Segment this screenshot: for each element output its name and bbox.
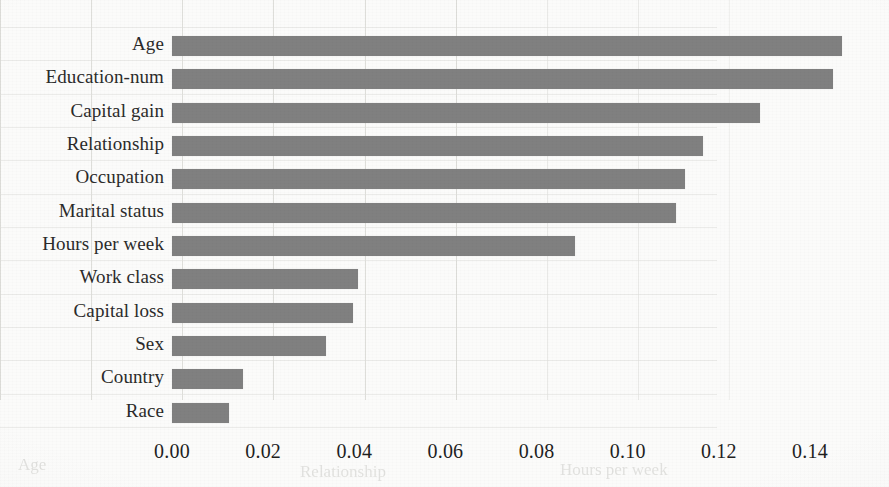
bar-row bbox=[172, 130, 889, 163]
y-axis-label-marital-status: Marital status bbox=[0, 201, 164, 221]
bar-row bbox=[172, 97, 889, 130]
bleed-text-bottom-left: Age bbox=[18, 455, 46, 475]
x-axis-tick-0.06: 0.06 bbox=[428, 438, 464, 464]
bar-relationship bbox=[172, 136, 703, 156]
bar-work-class bbox=[172, 269, 358, 289]
y-axis-label-sex: Sex bbox=[0, 334, 164, 354]
bar-occupation bbox=[172, 169, 685, 189]
bar-hours-per-week bbox=[172, 236, 575, 256]
x-axis-tick-0.10: 0.10 bbox=[610, 438, 646, 464]
x-axis-tick-0.02: 0.02 bbox=[245, 438, 281, 464]
x-axis-tick-0.00: 0.00 bbox=[154, 438, 190, 464]
bar-series bbox=[172, 30, 810, 430]
bar-row bbox=[172, 297, 889, 330]
x-axis-labels: 0.000.020.040.060.080.100.120.14 bbox=[172, 438, 889, 468]
x-axis-tick-0.08: 0.08 bbox=[519, 438, 555, 464]
y-axis-label-occupation: Occupation bbox=[0, 167, 164, 187]
y-axis-label-capital-loss: Capital loss bbox=[0, 301, 164, 321]
x-axis-tick-0.04: 0.04 bbox=[336, 438, 372, 464]
bar-sex bbox=[172, 336, 326, 356]
bar-row bbox=[172, 330, 889, 363]
y-axis-label-relationship: Relationship bbox=[0, 134, 164, 154]
bar-row bbox=[172, 197, 889, 230]
plot-area bbox=[172, 30, 810, 430]
bar-row bbox=[172, 263, 889, 296]
bar-row bbox=[172, 163, 889, 196]
bar-row bbox=[172, 230, 889, 263]
y-axis-label-education-num: Education-num bbox=[0, 67, 164, 87]
bar-row bbox=[172, 30, 889, 63]
bar-marital-status bbox=[172, 203, 676, 223]
bar-row bbox=[172, 363, 889, 396]
scan-hrule bbox=[0, 27, 717, 28]
bar-row bbox=[172, 397, 889, 430]
y-axis-label-age: Age bbox=[0, 34, 164, 54]
y-axis-label-race: Race bbox=[0, 401, 164, 421]
x-axis-tick-0.14: 0.14 bbox=[792, 438, 828, 464]
bar-education-num bbox=[172, 69, 833, 89]
y-axis-label-hours-per-week: Hours per week bbox=[0, 234, 164, 254]
bar-capital-gain bbox=[172, 103, 760, 123]
y-axis-label-capital-gain: Capital gain bbox=[0, 101, 164, 121]
y-axis-label-country: Country bbox=[0, 367, 164, 387]
bar-age bbox=[172, 36, 842, 56]
bar-country bbox=[172, 369, 243, 389]
x-axis-tick-0.12: 0.12 bbox=[701, 438, 737, 464]
y-axis-labels: AgeEducation-numCapital gainRelationship… bbox=[0, 30, 164, 430]
bar-capital-loss bbox=[172, 303, 353, 323]
bar-race bbox=[172, 403, 229, 423]
y-axis-label-work-class: Work class bbox=[0, 267, 164, 287]
bar-row bbox=[172, 63, 889, 96]
feature-importance-bar-chart: AgeEducation-numCapital gainRelationship… bbox=[0, 0, 889, 487]
